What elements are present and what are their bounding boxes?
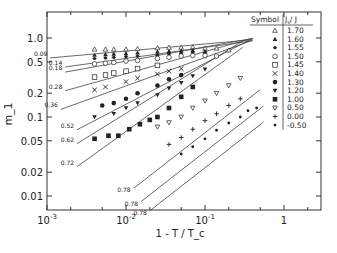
open-circle-icon [92, 62, 97, 67]
chart-canvas: 10-310-210-11 1.00.50.20.10.050.020.01 0… [0, 0, 337, 253]
filled-circle-icon [167, 77, 172, 82]
cross-icon [273, 71, 278, 76]
open-circle-icon [190, 53, 195, 58]
fit-line [150, 122, 264, 211]
x-tick-label: 10-1 [195, 213, 215, 226]
x-axis-label: 1 - T / T_c [156, 228, 205, 240]
plus-icon [179, 135, 184, 140]
series-1.20 [92, 68, 207, 120]
filled-square-icon [167, 106, 172, 111]
open-square-icon [273, 63, 278, 68]
fit-lines: 0.090.140.180.280.360.520.620.720.780.78… [34, 38, 264, 216]
filled-square-icon [190, 85, 195, 90]
slope-label: 0.78 [133, 209, 147, 216]
open-triangle-down-icon [179, 115, 184, 119]
open-square-icon [124, 69, 129, 74]
filled-triangle-down-icon [167, 87, 172, 91]
small-dot-icon [180, 153, 183, 156]
open-circle-icon [167, 55, 172, 60]
series-0.50 [155, 76, 242, 129]
y-tick-label: 0.5 [27, 57, 43, 68]
filled-triangle-up-icon [155, 49, 160, 53]
legend-header-ratio: Js/ J [284, 15, 297, 25]
slope-label: 0.36 [45, 101, 59, 108]
legend-header-symbol: Symbol [251, 15, 279, 24]
plus-icon [273, 114, 278, 119]
open-circle-icon [111, 60, 116, 65]
open-square-icon [103, 73, 108, 78]
slope-label: 0.78 [117, 186, 131, 193]
filled-circle-icon [135, 91, 140, 96]
series--0.50 [180, 107, 258, 156]
open-square-icon [92, 75, 97, 80]
slope-label: 0.18 [49, 64, 63, 71]
cross-icon [135, 76, 140, 81]
filled-square-icon [138, 122, 143, 127]
slope-label: 0.62 [61, 136, 75, 143]
filled-square-icon [179, 95, 184, 100]
open-triangle-up-icon [155, 46, 160, 50]
open-triangle-up-icon [111, 47, 116, 51]
small-dot-icon [274, 124, 277, 127]
filled-triangle-down-icon [273, 89, 278, 93]
open-triangle-up-icon [135, 46, 140, 50]
filled-square-icon [155, 115, 160, 120]
open-triangle-up-icon [92, 47, 97, 51]
filled-square-icon [147, 118, 152, 123]
filled-circle-icon [155, 83, 160, 88]
small-dot-icon [227, 122, 230, 125]
filled-triangle-down-icon [203, 68, 208, 72]
plot-border [47, 12, 321, 210]
filled-circle-icon [124, 96, 129, 101]
open-triangle-down-icon [203, 99, 208, 103]
open-triangle-up-icon [124, 47, 129, 51]
open-triangle-up-icon [273, 28, 278, 32]
filled-triangle-down-icon [92, 115, 97, 119]
y-tick-label: 1.0 [27, 33, 43, 44]
fit-line [141, 106, 263, 202]
filled-circle-icon [273, 80, 278, 85]
x-tick-label: 10-3 [37, 213, 57, 226]
small-dot-icon [215, 129, 218, 132]
open-triangle-down-icon [238, 76, 243, 80]
filled-square-icon [273, 97, 278, 102]
slope-label: 0.52 [61, 122, 75, 129]
cross-icon [124, 79, 129, 84]
open-circle-icon [135, 58, 140, 63]
open-circle-icon [103, 61, 108, 66]
cross-icon [103, 85, 108, 90]
slope-label: 0.72 [61, 159, 75, 166]
filled-triangle-up-icon [124, 51, 129, 55]
open-triangle-down-icon [190, 106, 195, 110]
plus-icon [190, 127, 195, 132]
filled-triangle-down-icon [190, 74, 195, 78]
open-circle-icon [214, 54, 219, 59]
series-1.30 [100, 73, 184, 108]
filled-triangle-up-icon [92, 53, 97, 57]
filled-circle-icon [179, 73, 184, 78]
y-tick-label: 0.1 [27, 112, 43, 123]
y-tick-label: 0.05 [21, 136, 43, 147]
y-tick-label: 0.01 [21, 191, 43, 202]
slope-label: 0.78 [125, 200, 139, 207]
plus-icon [238, 96, 243, 101]
plus-icon [167, 142, 172, 147]
open-triangle-down-icon [214, 91, 219, 95]
filled-triangle-down-icon [124, 106, 129, 110]
open-square-icon [135, 66, 140, 71]
y-axis-label: m_1 [2, 102, 15, 125]
small-dot-icon [239, 116, 242, 119]
open-triangle-down-icon [226, 84, 231, 88]
y-tick-label: 0.02 [21, 167, 43, 178]
cross-icon [92, 88, 97, 93]
open-triangle-down-icon [155, 125, 160, 129]
filled-square-icon [127, 127, 132, 132]
small-dot-icon [204, 137, 207, 140]
open-triangle-up-icon [103, 47, 108, 51]
legend: SymbolJs/ J1.701.601.551.501.451.401.301… [250, 14, 313, 130]
open-circle-icon [203, 53, 208, 58]
x-tick-label: 1 [281, 215, 287, 226]
open-circle-icon [179, 54, 184, 59]
filled-triangle-up-icon [135, 50, 140, 54]
filled-triangle-down-icon [179, 81, 184, 85]
